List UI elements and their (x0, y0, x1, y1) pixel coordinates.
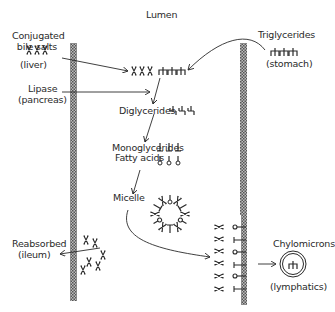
chylomicron-icon (280, 251, 306, 277)
triglycerides-label: Triglycerides (258, 29, 315, 40)
chylomicrons-label: Chylomicrons (273, 238, 335, 249)
diglycerides-label: Diglycerides (119, 105, 175, 116)
fatty-acids-label: Fatty acids (115, 152, 164, 163)
lipase-label: Lipase (28, 83, 57, 94)
lipase-source: (pancreas) (18, 94, 67, 105)
lumen-title: Lumen (146, 9, 177, 20)
right-intestinal-wall-upper (240, 43, 247, 215)
reabsorbed-source: (ileum) (18, 249, 50, 260)
micelle-label: Micelle (113, 192, 145, 203)
micelle-icon (151, 195, 189, 233)
triglycerides-source: (stomach) (266, 58, 312, 69)
chylomicrons-destination: (lymphatics) (270, 281, 327, 292)
bile-salts-label: Conjugated bile salts (12, 30, 62, 52)
left-intestinal-wall (70, 43, 77, 301)
reabsorbed-label: Reabsorbed (12, 238, 66, 249)
bile-salts-source: (liver) (20, 59, 47, 70)
